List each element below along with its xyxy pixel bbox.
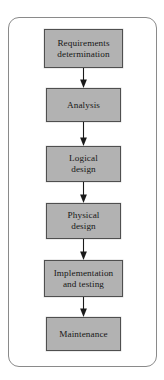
flow-connector-arrow-3 bbox=[77, 182, 90, 203]
flow-node-label: Maintenance bbox=[59, 329, 108, 340]
flowchart-diagram: Requirements determination Analysis Logi… bbox=[0, 0, 164, 380]
flow-node-requirements-determination[interactable]: Requirements determination bbox=[44, 29, 123, 68]
flow-node-implementation-and-testing[interactable]: Implementation and testing bbox=[44, 260, 123, 297]
flow-node-label: Analysis bbox=[67, 100, 100, 111]
flow-connector-arrow-5 bbox=[77, 297, 90, 317]
flow-node-maintenance[interactable]: Maintenance bbox=[46, 317, 121, 351]
flow-column: Requirements determination Analysis Logi… bbox=[0, 0, 164, 380]
flow-node-label: Physical design bbox=[68, 210, 100, 232]
flow-node-physical-design[interactable]: Physical design bbox=[46, 203, 121, 239]
flow-node-logical-design[interactable]: Logical design bbox=[46, 146, 121, 182]
flow-connector-arrow-1 bbox=[77, 68, 90, 88]
flow-node-label: Requirements determination bbox=[57, 38, 109, 60]
flow-node-label: Logical design bbox=[69, 153, 98, 175]
flow-node-label: Implementation and testing bbox=[54, 268, 114, 290]
flow-connector-arrow-4 bbox=[77, 239, 90, 260]
flow-node-analysis[interactable]: Analysis bbox=[46, 88, 121, 122]
flow-connector-arrow-2 bbox=[77, 122, 90, 146]
